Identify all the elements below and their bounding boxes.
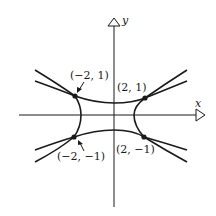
pointer-arrowhead-upper-icon (77, 87, 82, 93)
y-axis-label: y (122, 15, 128, 26)
pointer-arrowhead-lower-icon (78, 140, 83, 145)
point-neg2-1 (72, 93, 77, 98)
point-2-1 (142, 95, 147, 100)
point-label-2-neg1: (2, −1) (116, 144, 155, 155)
point-neg2-neg1 (71, 134, 76, 139)
point-label-2-1: (2, 1) (117, 82, 147, 93)
point-label-neg2-1: (−2, 1) (70, 70, 109, 81)
diagram-svg (0, 0, 216, 216)
hyperbola-diagram: y x (−2, 1) (2, 1) (−2, −1) (2, −1) (0, 0, 216, 216)
x-axis-arrow-icon (196, 109, 205, 121)
x-axis-label: x (195, 98, 201, 109)
vertical-hyperbola-lower-branch (35, 130, 187, 150)
point-label-neg2-neg1: (−2, −1) (57, 151, 105, 162)
point-2-neg1 (141, 134, 146, 139)
y-axis-arrow-icon (108, 18, 120, 26)
